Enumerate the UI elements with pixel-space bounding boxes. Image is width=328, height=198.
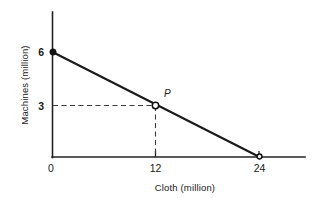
point-p-label: P [164, 88, 171, 99]
x-tick-label-12: 12 [150, 162, 162, 174]
intercept-marker-y [50, 49, 56, 55]
ppf-chart-svg: 6 3 0 12 24 P Cloth (million) Machines (… [0, 0, 328, 198]
intercept-marker-x [257, 154, 262, 159]
y-tick-label-3: 3 [38, 100, 44, 112]
x-axis-title: Cloth (million) [155, 182, 215, 193]
y-axis-title: Machines (million) [19, 45, 30, 124]
x-tick-label-0: 0 [48, 162, 54, 174]
x-tick-label-24: 24 [254, 162, 266, 174]
y-tick-label-6: 6 [38, 46, 44, 58]
point-p-marker [152, 102, 158, 108]
chart-figure: 6 3 0 12 24 P Cloth (million) Machines (… [0, 0, 328, 198]
